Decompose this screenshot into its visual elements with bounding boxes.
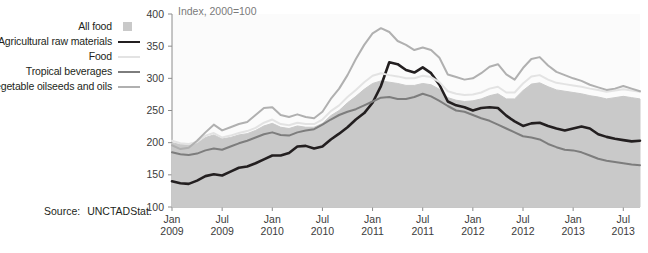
x-tick-label-year: 2010 — [311, 225, 335, 237]
x-tick-label-year: 2012 — [511, 225, 535, 237]
x-tick-label-year: 2012 — [461, 225, 485, 237]
x-tick-label-year: 2011 — [411, 225, 434, 237]
x-tick-label-month: Jul — [316, 213, 329, 225]
chart-title: Index, 2000=100 — [178, 5, 257, 17]
x-tick-label-month: Jan — [565, 213, 582, 225]
y-tick-label: 150 — [146, 168, 164, 180]
y-tick-label: 100 — [146, 201, 164, 213]
y-tick-label: 350 — [146, 40, 164, 52]
y-tick-label: 300 — [146, 72, 164, 84]
chart-plot: 100150200250300350400Jan2009Jul2009Jan20… — [0, 0, 648, 253]
x-tick-label-month: Jul — [516, 213, 529, 225]
y-tick-label: 200 — [146, 136, 164, 148]
y-tick-label: 250 — [146, 104, 164, 116]
x-tick-label-month: Jul — [416, 213, 429, 225]
y-tick-label: 400 — [146, 8, 164, 20]
x-tick-label-month: Jan — [264, 213, 281, 225]
x-tick-label-month: Jan — [464, 213, 481, 225]
chart-page: All food Agricultural raw materials Food… — [0, 0, 648, 253]
x-tick-label-year: 2009 — [210, 225, 234, 237]
x-tick-label-year: 2010 — [261, 225, 285, 237]
x-tick-label-year: 2013 — [561, 225, 585, 237]
x-tick-label-month: Jan — [364, 213, 381, 225]
x-tick-label-month: Jul — [617, 213, 630, 225]
x-tick-label-year: 2011 — [361, 225, 384, 237]
chart-container: Index, 2000=100 100150200250300350400Jan… — [0, 0, 648, 253]
x-tick-label-year: 2009 — [160, 225, 184, 237]
x-tick-label-year: 2013 — [612, 225, 636, 237]
x-tick-label-month: Jan — [164, 213, 181, 225]
x-tick-label-month: Jul — [215, 213, 228, 225]
